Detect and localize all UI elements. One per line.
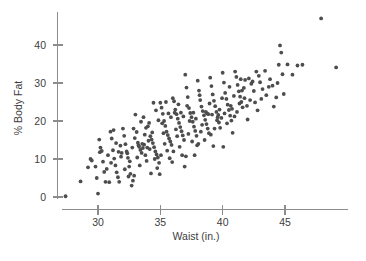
data-point: [193, 153, 197, 157]
data-point: [131, 179, 135, 183]
data-point: [183, 165, 187, 169]
data-point: [222, 81, 226, 85]
y-axis-title: % Body Fat: [12, 81, 24, 135]
data-point: [233, 115, 237, 119]
data-point: [281, 72, 285, 76]
data-point: [234, 75, 238, 79]
data-point: [160, 121, 164, 125]
data-point: [252, 89, 256, 93]
data-point: [268, 77, 272, 81]
data-point: [175, 134, 179, 138]
data-point: [160, 106, 164, 110]
data-point: [164, 100, 168, 104]
y-tick-label: 40: [34, 39, 46, 51]
data-point: [137, 143, 141, 147]
data-point: [258, 80, 262, 84]
data-point: [279, 51, 283, 55]
data-point: [286, 62, 290, 66]
data-point: [221, 145, 225, 149]
data-point: [223, 91, 227, 95]
data-point: [277, 63, 281, 67]
data-point: [130, 146, 134, 150]
data-point: [142, 115, 146, 119]
data-point: [259, 97, 263, 101]
data-point: [235, 110, 239, 114]
data-point: [209, 133, 213, 137]
data-point: [191, 111, 195, 115]
data-point: [181, 134, 185, 138]
data-point: [177, 102, 181, 106]
data-point: [163, 124, 167, 128]
data-point: [210, 113, 214, 117]
data-point: [64, 194, 68, 198]
data-point: [203, 118, 207, 122]
data-point: [139, 120, 143, 124]
data-point: [128, 159, 132, 163]
data-point: [170, 160, 174, 164]
data-point: [143, 153, 147, 157]
data-point: [130, 184, 134, 188]
data-point: [198, 93, 202, 97]
data-point: [178, 125, 182, 129]
data-point: [161, 112, 165, 116]
data-point: [119, 155, 123, 159]
data-point: [215, 118, 219, 122]
data-point: [124, 142, 128, 146]
data-point: [243, 96, 247, 100]
data-point: [157, 118, 161, 122]
data-point: [238, 95, 242, 99]
data-point: [165, 149, 169, 153]
data-point: [254, 70, 258, 74]
data-point: [195, 134, 199, 138]
data-point: [133, 136, 137, 140]
x-tick-label: 40: [217, 216, 229, 228]
data-point: [233, 70, 237, 74]
y-tick-label: 20: [34, 115, 46, 127]
data-point: [149, 172, 153, 176]
data-point: [140, 151, 144, 155]
data-point: [166, 133, 170, 137]
data-point: [301, 63, 305, 67]
data-point: [169, 115, 173, 119]
data-point: [210, 84, 214, 88]
data-point: [114, 141, 118, 145]
data-point: [163, 142, 167, 146]
data-point: [246, 118, 250, 122]
data-point: [193, 129, 197, 133]
data-point: [147, 139, 151, 143]
data-point: [159, 153, 163, 157]
data-point: [208, 102, 212, 106]
data-point: [134, 113, 138, 117]
data-point: [188, 119, 192, 123]
data-point: [267, 85, 271, 89]
data-point: [144, 126, 148, 130]
data-point: [228, 114, 232, 118]
data-point: [176, 117, 180, 121]
data-point: [196, 142, 200, 146]
data-point: [264, 93, 268, 97]
data-point: [218, 108, 222, 112]
data-point: [109, 161, 113, 165]
data-point: [147, 121, 151, 125]
data-point: [263, 69, 267, 73]
data-point: [206, 127, 210, 131]
data-point: [276, 81, 280, 85]
data-point: [86, 165, 90, 169]
data-point: [243, 78, 247, 82]
data-point: [102, 170, 106, 174]
data-point: [208, 76, 212, 80]
data-point: [79, 180, 83, 184]
data-point: [152, 101, 156, 105]
data-point: [241, 105, 245, 109]
data-point: [153, 157, 157, 161]
data-point: [94, 165, 98, 169]
data-point: [106, 153, 110, 157]
data-point: [116, 175, 120, 179]
data-point: [135, 130, 139, 134]
data-point: [223, 112, 227, 116]
data-point: [196, 79, 200, 83]
data-point: [220, 96, 224, 100]
data-point: [154, 108, 158, 112]
data-point: [155, 166, 159, 170]
data-point: [158, 101, 162, 105]
